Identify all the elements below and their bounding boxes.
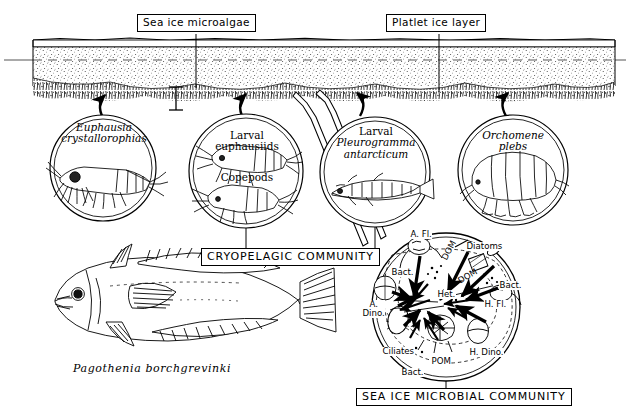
figure-canvas: Sea ice microalgae Platlet ice layer Eup… bbox=[0, 0, 629, 418]
diagram-artwork bbox=[0, 0, 629, 418]
microbial-label-adino: A. Dino. bbox=[362, 300, 385, 318]
caption-euphausia: Euphausia crystallorophias bbox=[57, 122, 151, 145]
microbial-label-bact-bottom: Bact. bbox=[401, 368, 424, 377]
euphausia-line2: crystallorophias bbox=[61, 132, 147, 144]
orchomene-line1: Orchomene bbox=[482, 129, 544, 141]
microbial-label-bact-top: Bact. bbox=[391, 268, 414, 277]
caption-larval-euphausiids: Larval euphausiids bbox=[201, 130, 293, 153]
microbial-label-hfl: H. Fl. bbox=[484, 300, 507, 309]
euphausiids-line2: euphausiids bbox=[215, 140, 279, 152]
microbial-label-hdino: H. Dino. bbox=[469, 348, 504, 357]
microbial-label-bact-right: Bact. bbox=[499, 281, 522, 290]
label-sea-ice-microalgae: Sea ice microalgae bbox=[137, 14, 256, 32]
caption-pleurogramma: Larval Pleurogramma antarcticum bbox=[323, 126, 429, 160]
microbial-label-ciliates: Ciliates bbox=[382, 347, 415, 356]
pleurogramma-line1: Larval bbox=[359, 125, 393, 137]
caption-orchomene: Orchomene plebs bbox=[466, 130, 560, 153]
euphausiids-line1: Larval bbox=[230, 129, 264, 141]
microbial-label-pom: POM bbox=[431, 357, 451, 366]
label-sea-ice-microbial-community: SEA ICE MICROBIAL COMMUNITY bbox=[356, 388, 572, 406]
orchomene-line2: plebs bbox=[499, 140, 527, 152]
adino-line2: Dino. bbox=[363, 308, 385, 318]
microbial-label-diatoms: Diatoms bbox=[466, 242, 503, 251]
microbial-label-afl: A. Fl. bbox=[410, 230, 432, 239]
pleurogramma-line3: antarcticum bbox=[344, 148, 409, 160]
pleurogramma-line2: Pleurogramma bbox=[337, 136, 416, 148]
euphausia-line1: Euphausia bbox=[76, 121, 132, 133]
copepods-label: Copepods bbox=[221, 171, 273, 183]
label-platlet-ice-layer: Platlet ice layer bbox=[386, 14, 486, 32]
label-cryopelagic-community: CRYOPELAGIC COMMUNITY bbox=[201, 248, 380, 266]
sea-ice-slab bbox=[4, 38, 626, 101]
caption-copepods: Copepods bbox=[210, 172, 284, 183]
microbial-label-het: Het. bbox=[437, 290, 456, 299]
caption-pagothenia: Pagothenia borchgrevinki bbox=[73, 362, 231, 375]
